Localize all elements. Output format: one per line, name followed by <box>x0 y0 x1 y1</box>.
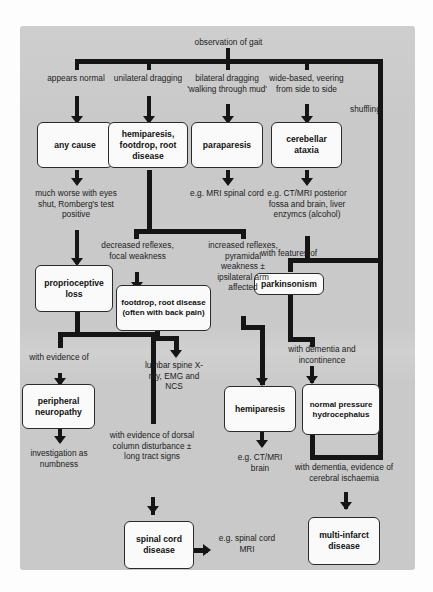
note-eg-ctmri-posterior: e.g. CT/MRI posterior fossa and brain, l… <box>265 188 349 220</box>
label-shuffling: shuffling <box>350 104 410 115</box>
note-decreased-reflexes: decreased reflexes, focal weakness <box>100 240 175 261</box>
flowchart-canvas: any cause hemiparesis, footdrop, root di… <box>0 0 433 592</box>
label-bilateral-dragging: bilateral dragging 'walking through mud' <box>185 73 269 94</box>
label-wide-based: wide-based, veering from side to side <box>267 73 346 94</box>
label-layer: observation of gait appears normal unila… <box>0 0 433 592</box>
note-with-dementia-cerebral: with dementia, evidence of cerebral isch… <box>290 462 398 483</box>
note-investigation-numbness: investigation as numbness <box>16 448 102 469</box>
note-with-features-of: with features of <box>254 248 324 259</box>
note-lumbar-spine: lumbar spine X-ray, EMG and NCS <box>140 360 208 392</box>
note-with-dementia-incontinence: with dementia and incontinence <box>276 344 368 365</box>
note-eg-mri-spinal-cord: e.g. MRI spinal cord <box>188 188 266 199</box>
root-title: observation of gait <box>166 37 291 48</box>
label-unilateral-dragging: unilateral dragging <box>112 73 184 84</box>
note-eg-spinal-cord-mri: e.g. spinal cord MRI <box>214 533 280 554</box>
note-with-evidence-dorsal: with evidence of dorsal column disturban… <box>106 430 198 462</box>
note-eg-ctmri-brain: e.g. CT/MRI brain <box>228 452 292 473</box>
label-appears-normal: appears normal <box>40 73 112 84</box>
note-much-worse: much worse with eyes shut, Romberg's tes… <box>27 188 125 220</box>
note-with-evidence-of: with evidence of <box>25 352 93 363</box>
